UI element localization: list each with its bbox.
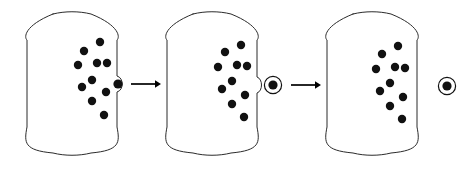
particle-dot [376,87,384,95]
flow-arrow-1 [131,80,161,87]
flow-arrow-2 [291,81,321,88]
particle-dot [394,42,402,50]
particle-dot [80,47,88,55]
particle-dot [102,88,110,96]
extracted-particle-icon[interactable] [438,77,455,94]
particle-dot [96,38,104,46]
stage-1-escaping-particle[interactable] [113,79,122,88]
particle-dot [391,63,399,71]
particle-dot [74,61,82,69]
stage-3-container[interactable] [326,12,419,156]
stage-3-group [326,12,419,156]
stage-2-group [166,12,282,156]
stage-1-container[interactable] [26,12,123,156]
stage-2-escaping-particle[interactable] [264,76,281,93]
arrow-head-icon [155,80,161,87]
particle-dot [398,115,406,123]
escaping-particle-dot[interactable] [113,79,122,88]
particle-dot [78,83,86,91]
particle-dot [228,77,236,85]
arrow-head-icon [315,81,321,88]
particle-dot [88,76,96,84]
particle-dot [399,93,407,101]
particle-dot [401,64,409,72]
particle-dot [218,85,226,93]
particle-dot [241,91,249,99]
diagram-svg [0,0,473,171]
extracted-particle-dot[interactable] [442,81,451,90]
particle-dot [378,50,386,58]
escaping-particle-dot[interactable] [268,80,277,89]
particle-dot [221,48,229,56]
stage-2-container[interactable] [166,12,262,156]
particle-dot [214,63,222,71]
particle-dot [243,62,251,70]
particle-dot [100,111,108,119]
stage-1-group [26,12,123,156]
particle-dot [240,113,248,121]
particle-dot [228,100,236,108]
particle-dot [103,59,111,67]
particle-dot [386,79,394,87]
particle-dot [93,59,101,67]
particle-dot [237,41,245,49]
particle-dot [386,102,394,110]
particle-dot [88,97,96,105]
particle-dot [372,65,380,73]
diagram-canvas [0,0,473,171]
particle-dot [233,61,241,69]
